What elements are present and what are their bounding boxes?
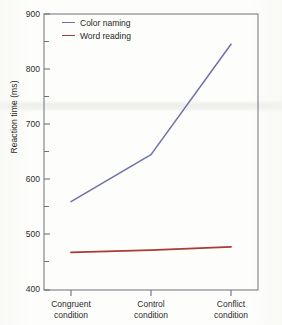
x-axis-ticks: [71, 290, 231, 296]
legend-swatch-color-naming: [62, 22, 75, 23]
legend-label-word-reading: Word reading: [80, 31, 131, 41]
x-tick-label-conflict: Conflict condition: [193, 299, 269, 321]
x-tick-label-conflict-line1: Conflict: [193, 299, 269, 310]
x-tick-label-control-line1: Control: [113, 299, 189, 310]
plot-area: [0, 0, 282, 325]
series-line-color-naming: [71, 44, 231, 201]
legend-item-color-naming: Color naming: [62, 16, 131, 29]
legend-label-color-naming: Color naming: [80, 18, 131, 28]
plot-frame: [44, 14, 258, 290]
chart-legend: Color naming Word reading: [62, 16, 131, 42]
legend-swatch-word-reading: [62, 35, 75, 36]
x-tick-label-conflict-line2: condition: [193, 310, 269, 321]
series-line-word-reading: [71, 247, 231, 253]
x-tick-label-control: Control condition: [113, 299, 189, 321]
y-axis-minor-ticks: [44, 42, 49, 262]
x-tick-label-congruent-line2: condition: [33, 310, 109, 321]
reaction-time-line-chart: Reaction time (ms) 900 800 700 600 500 4…: [0, 0, 282, 325]
x-tick-label-congruent: Congruent condition: [33, 299, 109, 321]
legend-item-word-reading: Word reading: [62, 29, 131, 42]
x-tick-label-control-line2: condition: [113, 310, 189, 321]
x-tick-label-congruent-line1: Congruent: [33, 299, 109, 310]
